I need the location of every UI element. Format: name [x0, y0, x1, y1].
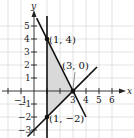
tick-label-y2: 2: [24, 60, 30, 70]
tick-label-ym3: −3: [18, 125, 32, 135]
label-point-1-neg2: (1, −2): [49, 113, 84, 124]
point-3-0: [71, 89, 76, 94]
tick-label-y5: 5: [24, 21, 30, 31]
label-point-3-0: (3, 0): [62, 60, 89, 71]
tick-label-xm1: −1: [14, 95, 27, 105]
line-y-x-minus-3-ext: [89, 67, 97, 75]
x-axis-arrow-icon: [119, 89, 126, 94]
leader-line: [73, 72, 75, 88]
inequality-graph: (1, 4) (3, 0) (1, −2) y x 5 4 3 2 1 −1 −…: [0, 0, 134, 138]
tick-label-x6: 6: [109, 95, 115, 105]
tick-label-y3: 3: [24, 47, 30, 57]
label-point-1-4: (1, 4): [49, 34, 76, 45]
tick-label-x5: 5: [96, 95, 102, 105]
y-axis-arrow-icon: [32, 10, 37, 17]
y-axis-label: y: [30, 1, 37, 11]
tick-label-y1: 1: [25, 73, 31, 83]
x-axis-label: x: [127, 86, 132, 96]
tick-label-x3: 3: [70, 95, 76, 105]
tick-label-ym2: −2: [18, 112, 31, 122]
tick-label-y4: 4: [24, 34, 30, 44]
tick-label-x4: 4: [83, 95, 89, 105]
